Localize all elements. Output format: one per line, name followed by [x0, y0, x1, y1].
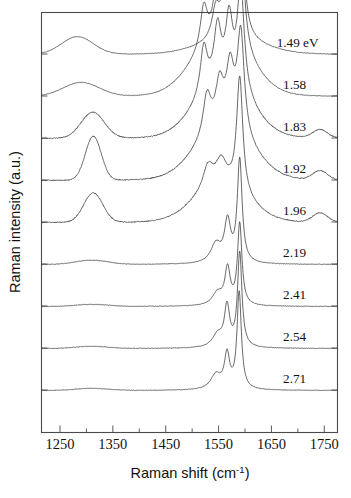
svg-text:Raman shift (cm-1): Raman shift (cm-1): [131, 464, 250, 481]
x-tick-label: 1750: [310, 436, 339, 452]
trace-label-2-71: 2.71: [283, 371, 306, 386]
x-axis-title-superscript: -1: [236, 464, 245, 475]
raman-spectra-figure: 125013501450155016501750 1.49 eV1.581.83…: [0, 0, 351, 498]
x-tick-label: 1250: [46, 436, 75, 452]
trace-label-1-58: 1.58: [283, 77, 306, 92]
x-tick-label: 1350: [98, 436, 127, 452]
trace-label-1-92: 1.92: [283, 161, 306, 176]
trace-label-2-19: 2.19: [283, 245, 306, 260]
raman-plot-svg: 125013501450155016501750 1.49 eV1.581.83…: [0, 0, 351, 498]
y-axis-title-text: Raman intensity (a.u.): [7, 151, 23, 293]
trace-label-2-41: 2.41: [283, 287, 306, 302]
x-tick-label: 1450: [151, 436, 180, 452]
trace-label-1-49-ev: 1.49 eV: [277, 35, 319, 50]
x-tick-label: 1650: [257, 436, 286, 452]
trace-label-1-96: 1.96: [283, 203, 306, 218]
trace-label-2-54: 2.54: [283, 329, 306, 344]
x-axis-title-main: Raman shift (cm: [131, 465, 237, 481]
trace-label-1-83: 1.83: [283, 119, 306, 134]
x-tick-label: 1550: [204, 436, 233, 452]
x-axis-title: Raman shift (cm-1): [131, 464, 250, 481]
y-axis-title: Raman intensity (a.u.): [7, 151, 23, 293]
x-axis-title-tail: ): [245, 465, 250, 481]
